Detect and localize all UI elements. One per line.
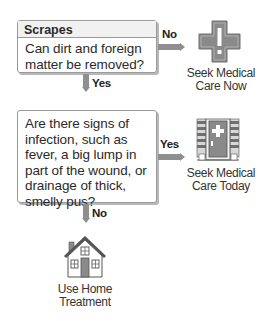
question-header: Scrapes [18, 21, 156, 38]
edge-label-yes: Yes [92, 77, 111, 89]
edge-label-no: No [92, 207, 107, 219]
emergency-cross-icon [198, 20, 241, 63]
question-box-infection: Are there signs of infection, such as fe… [17, 110, 157, 203]
outcome-label-care-today: Seek Medical Care Today [178, 167, 264, 193]
question-text: Are there signs of infection, such as fe… [18, 111, 156, 213]
edge-label-no: No [162, 28, 177, 40]
house-icon [63, 236, 107, 279]
arrow-no-right [158, 44, 180, 50]
question-text: Can dirt and foreign matter be removed? [18, 38, 156, 76]
outcome-label-home: Use Home Treatment [45, 283, 125, 309]
edge-label-yes: Yes [160, 138, 179, 150]
question-box-scrapes: Scrapes Can dirt and foreign matter be r… [17, 20, 157, 73]
arrow-no-down [83, 204, 89, 218]
outcome-label-care-now: Seek Medical Care Now [178, 67, 264, 93]
arrow-yes-down [83, 74, 89, 87]
clinic-door-icon [196, 118, 240, 162]
arrow-yes-right [158, 154, 180, 160]
